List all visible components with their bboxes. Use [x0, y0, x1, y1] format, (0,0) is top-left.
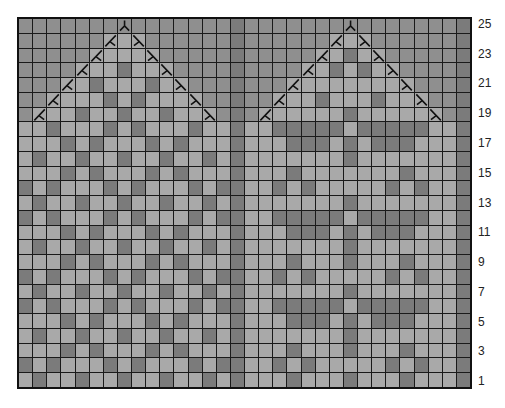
chart-cell — [457, 63, 470, 77]
chart-cell — [372, 49, 385, 63]
chart-cell — [231, 299, 244, 313]
left-decrease-icon — [259, 108, 272, 122]
chart-cell — [47, 211, 60, 225]
chart-cell — [104, 63, 117, 77]
chart-cell — [344, 226, 357, 240]
chart-cell — [400, 285, 413, 299]
chart-cell — [372, 314, 385, 328]
chart-cell — [47, 108, 60, 122]
chart-cell — [132, 255, 145, 269]
chart-cell — [146, 93, 159, 107]
chart-cell — [203, 93, 216, 107]
chart-cell — [400, 49, 413, 63]
chart-cell — [47, 373, 60, 387]
chart-cell — [372, 122, 385, 136]
chart-cell — [76, 108, 89, 122]
chart-cell — [19, 329, 32, 343]
row-label-3: 3 — [478, 344, 485, 359]
chart-cell — [287, 49, 300, 63]
chart-cell — [160, 314, 173, 328]
chart-cell — [76, 196, 89, 210]
chart-cell — [457, 19, 470, 33]
chart-cell — [19, 137, 32, 151]
chart-cell — [132, 373, 145, 387]
chart-cell — [174, 285, 187, 299]
chart-cell — [47, 137, 60, 151]
chart-cell — [457, 34, 470, 48]
chart-cell — [104, 329, 117, 343]
chart-cell — [400, 108, 413, 122]
chart-cell — [217, 329, 230, 343]
chart-cell — [189, 49, 202, 63]
chart-cell — [104, 108, 117, 122]
chart-cell — [400, 211, 413, 225]
chart-cell — [203, 329, 216, 343]
chart-cell — [47, 226, 60, 240]
chart-cell — [358, 122, 371, 136]
chart-cell — [316, 240, 329, 254]
chart-cell — [160, 270, 173, 284]
chart-cell — [344, 240, 357, 254]
chart-cell — [415, 122, 428, 136]
chart-cell — [386, 358, 399, 372]
chart-cell — [287, 270, 300, 284]
chart-cell — [372, 344, 385, 358]
chart-cell — [443, 181, 456, 195]
chart-cell — [330, 108, 343, 122]
chart-cell — [330, 270, 343, 284]
chart-cell — [33, 226, 46, 240]
chart-cell — [457, 181, 470, 195]
chart-cell — [104, 167, 117, 181]
chart-cell — [259, 285, 272, 299]
chart-cell — [189, 108, 202, 122]
right-decrease-icon — [189, 93, 202, 107]
chart-cell — [47, 167, 60, 181]
chart-cell — [174, 299, 187, 313]
chart-cell — [259, 34, 272, 48]
right-decrease-icon — [160, 63, 173, 77]
chart-cell — [330, 63, 343, 77]
chart-cell — [443, 373, 456, 387]
chart-cell — [146, 373, 159, 387]
chart-cell — [19, 152, 32, 166]
chart-cell — [316, 78, 329, 92]
chart-cell — [429, 63, 442, 77]
chart-cell — [33, 196, 46, 210]
chart-cell — [90, 270, 103, 284]
chart-cell — [443, 211, 456, 225]
chart-cell — [457, 270, 470, 284]
chart-cell — [19, 373, 32, 387]
chart-cell — [132, 167, 145, 181]
chart-cell — [231, 108, 244, 122]
chart-cell — [358, 137, 371, 151]
chart-cell — [76, 314, 89, 328]
chart-cell — [287, 329, 300, 343]
chart-cell — [19, 314, 32, 328]
chart-cell — [33, 122, 46, 136]
chart-cell — [273, 226, 286, 240]
chart-cell — [259, 108, 272, 122]
left-decrease-icon — [273, 93, 286, 107]
chart-cell — [33, 108, 46, 122]
chart-cell — [302, 299, 315, 313]
chart-cell — [47, 152, 60, 166]
chart-cell — [90, 181, 103, 195]
chart-cell — [344, 152, 357, 166]
chart-cell — [118, 240, 131, 254]
chart-cell — [160, 108, 173, 122]
row-number-labels: 252321191715131197531 — [478, 17, 505, 389]
row-label-5: 5 — [478, 315, 485, 330]
chart-cell — [259, 211, 272, 225]
chart-cell — [429, 152, 442, 166]
chart-cell — [400, 226, 413, 240]
chart-cell — [231, 167, 244, 181]
chart-cell — [76, 240, 89, 254]
chart-cell — [443, 255, 456, 269]
chart-cell — [174, 314, 187, 328]
chart-cell — [273, 240, 286, 254]
chart-cell — [90, 19, 103, 33]
chart-cell — [203, 285, 216, 299]
chart-cell — [189, 122, 202, 136]
chart-cell — [372, 373, 385, 387]
chart-cell — [302, 122, 315, 136]
